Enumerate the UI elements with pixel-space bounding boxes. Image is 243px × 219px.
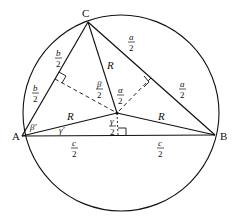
vertex-label-c: C xyxy=(82,7,89,19)
label-b-half-lower: b 2 xyxy=(32,83,39,104)
svg-text:b: b xyxy=(56,48,61,58)
svg-text:γ: γ xyxy=(110,116,114,126)
vertex-label-a: A xyxy=(12,130,20,142)
radius-bo xyxy=(117,113,215,135)
svg-text:b: b xyxy=(33,83,38,93)
svg-text:2: 2 xyxy=(56,59,61,69)
label-c-half-right: c 2 xyxy=(157,138,164,159)
vertex-label-b: B xyxy=(220,130,227,142)
label-a-half-upper: a 2 xyxy=(128,32,135,53)
label-radius-bo: R xyxy=(157,110,165,122)
svg-text:c: c xyxy=(72,138,76,148)
svg-text:2: 2 xyxy=(97,90,102,100)
side-cb xyxy=(88,22,215,135)
label-b-half-upper: b 2 xyxy=(55,48,62,69)
label-gamma-half: γ 2 xyxy=(109,116,116,137)
right-angle-marker-cb xyxy=(144,76,149,87)
svg-text:2: 2 xyxy=(33,94,38,104)
svg-text:2: 2 xyxy=(180,90,185,100)
perpendicular-to-ab xyxy=(117,113,118,135)
svg-text:2: 2 xyxy=(110,127,115,137)
svg-text:2: 2 xyxy=(129,43,134,53)
label-c-half-left: c 2 xyxy=(71,138,78,159)
label-radius-ao: R xyxy=(66,110,74,122)
svg-text:a: a xyxy=(180,79,185,89)
label-gamma-prime: γ' xyxy=(59,125,66,135)
label-radius-co: R xyxy=(106,59,114,71)
svg-text:α: α xyxy=(118,85,123,95)
side-ab xyxy=(22,135,215,136)
svg-text:2: 2 xyxy=(72,149,77,159)
label-a-half-lower: a 2 xyxy=(179,79,186,100)
right-angle-marker-ab xyxy=(118,128,126,135)
svg-text:2: 2 xyxy=(118,96,123,106)
svg-text:c: c xyxy=(158,138,162,148)
right-angle-marker-ca xyxy=(59,72,66,83)
label-beta-prime: β' xyxy=(29,122,37,132)
svg-text:a: a xyxy=(129,32,134,42)
circumcircle-diagram: C A B b 2 b 2 a 2 a 2 c 2 c 2 R R R β xyxy=(0,0,243,219)
svg-text:2: 2 xyxy=(158,149,163,159)
label-beta-half: β 2 xyxy=(96,79,103,100)
label-alpha-half: α 2 xyxy=(117,85,124,106)
circumcenter-point xyxy=(116,112,119,115)
svg-text:β: β xyxy=(96,79,102,89)
